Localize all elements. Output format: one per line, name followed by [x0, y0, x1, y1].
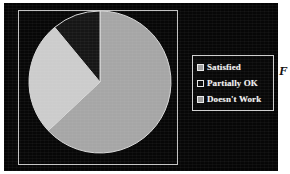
legend-label-doesnt-work: Doesn't Work	[207, 94, 261, 104]
margin-glyph: F	[279, 64, 288, 77]
pie-chart	[27, 9, 173, 155]
pie-slices	[29, 11, 171, 153]
legend-label-partially-ok: Partially OK	[207, 78, 258, 88]
legend-item-doesnt-work[interactable]: Doesn't Work	[197, 91, 270, 107]
scanned-page: Satisfied Partially OK Doesn't Work F	[0, 0, 290, 174]
pie-svg	[27, 9, 173, 155]
legend-item-partially-ok[interactable]: Partially OK	[197, 75, 270, 91]
legend-swatch-doesnt-work	[197, 96, 204, 103]
legend-item-satisfied[interactable]: Satisfied	[197, 59, 270, 75]
legend-swatch-partially-ok	[197, 80, 204, 87]
legend-swatch-satisfied	[197, 64, 204, 71]
legend: Satisfied Partially OK Doesn't Work	[192, 55, 274, 111]
chart-panel: Satisfied Partially OK Doesn't Work	[4, 3, 278, 171]
legend-label-satisfied: Satisfied	[207, 62, 241, 72]
